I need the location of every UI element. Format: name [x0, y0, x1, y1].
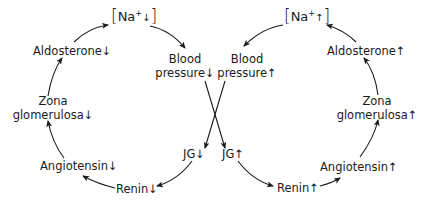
diagram-canvas: [Na+↓] Aldosterone↓ Blood pressure↓ Zona… — [0, 0, 426, 206]
aldosterone-decrease-node: Aldosterone↓ — [33, 44, 111, 58]
arrow-angiotensin-to-zona-right — [360, 120, 378, 157]
arrow-na-to-bp-left — [150, 26, 185, 48]
zona-decrease-line1: Zona — [12, 94, 94, 108]
blood-pressure-decrease-line1: Blood — [154, 52, 216, 66]
na-decrease-node: [Na+↓] — [111, 6, 157, 26]
angiotensin-increase-node: Angiotensin↑ — [320, 160, 398, 174]
arrow-angiotensin-to-zona-left — [48, 121, 64, 158]
zona-glomerulosa-decrease-node: Zona glomerulosa↓ — [12, 94, 94, 122]
arrow-na-to-bp-right — [244, 25, 283, 46]
arrow-zona-to-aldosterone-left — [48, 58, 62, 96]
arrow-zona-to-aldosterone-right — [364, 58, 378, 95]
blood-pressure-increase-line1: Blood — [216, 52, 278, 66]
angiotensin-decrease-node: Angiotensin↓ — [40, 159, 118, 173]
zona-glomerulosa-increase-node: Zona glomerulosa↑ — [336, 94, 418, 122]
arrow-jg-to-renin-right — [238, 161, 273, 186]
arrow-jg-to-renin-left — [157, 161, 192, 186]
arrow-renin-to-angiotensin-left — [83, 176, 115, 188]
jg-decrease-node: JG↓ — [183, 147, 205, 161]
zona-decrease-line2: glomerulosa↓ — [12, 108, 94, 122]
aldosterone-increase-node: Aldosterone↑ — [327, 44, 405, 58]
arrow-renin-to-angiotensin-right — [320, 178, 340, 186]
arrow-aldosterone-to-na-left — [74, 25, 108, 42]
jg-increase-node: JG↑ — [222, 147, 244, 161]
na-increase-node: [Na+↑] — [284, 6, 330, 26]
blood-pressure-increase-node: Blood pressure↑ — [216, 52, 278, 80]
blood-pressure-decrease-node: Blood pressure↓ — [154, 52, 216, 80]
renin-increase-node: Renin↑ — [277, 181, 319, 195]
blood-pressure-increase-line2: pressure↑ — [216, 66, 278, 80]
renin-decrease-node: Renin↓ — [116, 182, 158, 196]
blood-pressure-decrease-line2: pressure↓ — [154, 66, 216, 80]
zona-increase-line2: glomerulosa↑ — [336, 108, 418, 122]
arrow-aldosterone-to-na-right — [327, 25, 356, 42]
zona-increase-line1: Zona — [336, 94, 418, 108]
